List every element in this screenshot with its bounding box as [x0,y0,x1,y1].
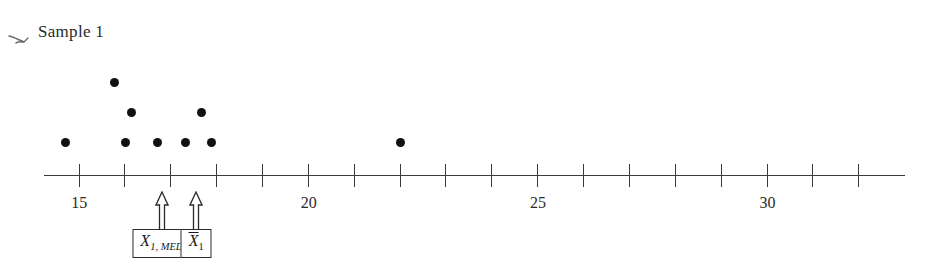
data-dot [197,108,206,117]
axis-tick [170,164,171,187]
axis-tick-label: 30 [759,194,775,212]
x-axis-line [44,175,905,176]
marker-label-box-mean: X1 [181,229,212,258]
marker-subscript: 1 [199,241,204,252]
dot-plot-figure: Sample 1 15202530 X1, MEDX1 [0,0,938,279]
axis-tick [629,164,630,187]
axis-tick [216,164,217,187]
data-dot [396,138,405,147]
axis-tick [445,164,446,187]
scan-artifact-icon [8,32,34,46]
axis-tick [675,164,676,187]
axis-tick [400,164,401,187]
data-dot [121,138,130,147]
axis-tick [262,164,263,187]
axis-tick-label: 20 [301,194,317,212]
data-dot [181,138,190,147]
data-dot [153,138,162,147]
axis-tick [308,164,309,187]
axis-tick [354,164,355,187]
axis-tick [767,164,768,187]
axis-tick [537,164,538,187]
axis-tick [721,164,722,187]
axis-tick [79,164,80,187]
marker-variable-symbol: X [140,232,150,249]
axis-tick [124,164,125,187]
axis-tick [491,164,492,187]
axis-tick [812,164,813,187]
data-dot [127,108,136,117]
data-dot [207,138,216,147]
axis-tick-label: 25 [530,194,546,212]
marker-subscript: 1, MED [150,241,183,252]
marker-variable-symbol: X [189,233,199,249]
axis-tick-label: 15 [71,194,87,212]
sample-title: Sample 1 [38,22,104,42]
axis-tick [583,164,584,187]
axis-tick [858,164,859,187]
data-dot [110,78,119,87]
data-dot [61,138,70,147]
